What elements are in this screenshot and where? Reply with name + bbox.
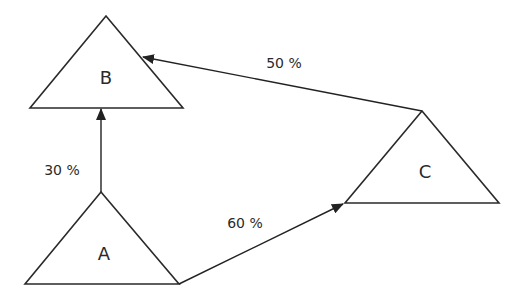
- edge-c-to-b: 50 %: [143, 55, 422, 111]
- node-c: C: [345, 111, 499, 203]
- triangle-b-shape: [30, 16, 183, 108]
- edge-a-c-label: 60 %: [227, 215, 263, 231]
- node-a-label: A: [98, 243, 111, 264]
- triangle-c-shape: [345, 111, 499, 203]
- triangle-a-shape: [25, 192, 179, 284]
- edge-a-to-b: 30 %: [44, 109, 101, 192]
- edge-a-to-c: 60 %: [179, 204, 343, 284]
- node-b-label: B: [100, 67, 112, 88]
- edge-c-b-label: 50 %: [266, 55, 302, 71]
- edge-a-b-label: 30 %: [44, 162, 80, 178]
- node-a: A: [25, 192, 179, 284]
- node-c-label: C: [419, 161, 432, 182]
- node-b: B: [30, 16, 183, 108]
- flow-diagram: B A C 30 % 50 % 60 %: [0, 0, 525, 299]
